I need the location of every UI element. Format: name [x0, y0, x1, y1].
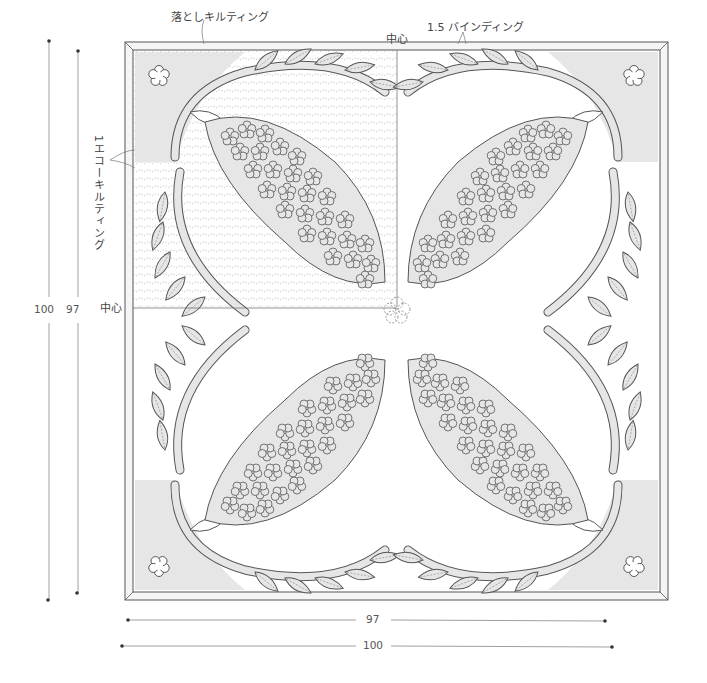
center-left-label: 中心: [100, 299, 122, 315]
echo-quilting-label: 1エコーキルティング: [90, 135, 106, 251]
quilt-diagram: [0, 0, 707, 683]
binding-label: 1.5 バインディング: [427, 18, 524, 34]
outer-width-dimension: 100: [357, 639, 389, 651]
outer-height-dimension: 100: [34, 301, 54, 317]
center-top-label: 中心: [386, 30, 408, 46]
inner-height-dimension: 97: [66, 301, 79, 317]
inner-width-dimension: 97: [360, 613, 385, 625]
drop-quilting-label: 落としキルティング: [171, 8, 269, 24]
